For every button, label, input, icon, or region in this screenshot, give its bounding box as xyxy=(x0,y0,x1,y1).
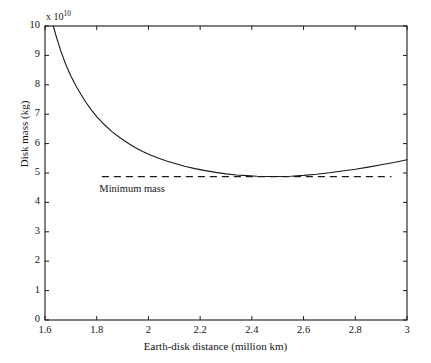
x-tick-label: 2.6 xyxy=(286,324,322,335)
y-tick-label: 2 xyxy=(3,254,40,265)
disk-mass-curve xyxy=(53,26,407,177)
y-tick-label: 9 xyxy=(3,48,40,59)
y-tick-label: 5 xyxy=(3,166,40,177)
y-tick-label: 8 xyxy=(3,78,40,89)
axes-box xyxy=(45,26,407,320)
y-tick-label: 0 xyxy=(3,313,40,324)
y-axis-exponent-label: x 1010 xyxy=(46,9,71,22)
x-tick-label: 1.8 xyxy=(79,324,115,335)
x-tick-label: 2.2 xyxy=(182,324,218,335)
y-tick-label: 4 xyxy=(3,195,40,206)
y-tick-label: 1 xyxy=(3,284,40,295)
x-tick-label: 2.4 xyxy=(234,324,270,335)
y-tick-label: 7 xyxy=(3,107,40,118)
y-axis-exponent-mantissa: x 10 xyxy=(46,11,64,22)
x-tick-label: 3 xyxy=(389,324,425,335)
chart-plot-svg xyxy=(0,0,431,363)
x-axis-ticks xyxy=(45,26,407,320)
x-tick-label: 2 xyxy=(130,324,166,335)
minimum-mass-annotation: Minimum mass xyxy=(99,183,165,194)
x-tick-label: 1.6 xyxy=(27,324,63,335)
y-axis-ticks xyxy=(45,26,407,320)
x-tick-label: 2.8 xyxy=(337,324,373,335)
x-axis-title: Earth-disk distance (million km) xyxy=(0,340,431,352)
y-tick-label: 3 xyxy=(3,225,40,236)
y-tick-label: 6 xyxy=(3,137,40,148)
y-axis-exponent-power: 10 xyxy=(64,9,72,18)
y-tick-label: 10 xyxy=(3,19,40,30)
chart-figure: x 1010 Disk mass (kg) Earth-disk distanc… xyxy=(0,0,431,363)
